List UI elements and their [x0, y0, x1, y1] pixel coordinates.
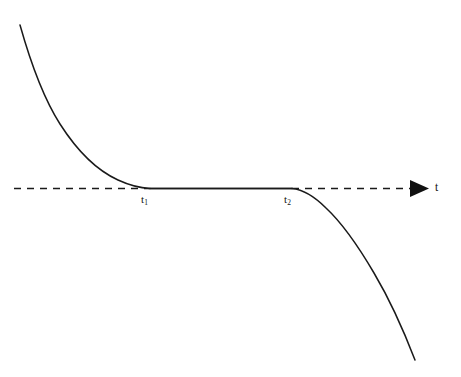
curve-decay-branch [20, 25, 150, 189]
tick-label-t1: t1 [141, 194, 148, 205]
plot-area [0, 0, 461, 377]
x-axis-arrowhead-icon [410, 180, 429, 197]
tick-label-t1-subscript: 1 [144, 198, 148, 207]
x-axis-label: t [435, 182, 438, 194]
tick-label-t2-subscript: 2 [287, 198, 291, 207]
curve-divergence-branch [292, 189, 415, 361]
figure-canvas: t1 t2 t [0, 0, 461, 377]
tick-label-t2: t2 [284, 194, 291, 205]
